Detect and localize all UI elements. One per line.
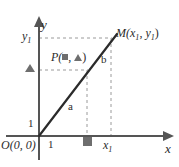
x1-tick-label: x1 (103, 139, 112, 155)
square-marker-x-axis (83, 137, 92, 146)
geometry-figure: y x y1 x1 1 1 O(0, 0) M(x1, y1) P(, ) a … (0, 0, 179, 167)
point-p-label: P(, ) (51, 51, 86, 63)
y-axis-label: y (41, 18, 47, 31)
triangle-glyph (74, 54, 82, 61)
x-axis-label: x (165, 142, 171, 155)
x1-tick-sub: 1 (108, 145, 112, 154)
x-axis-arrow-icon (163, 131, 174, 141)
point-m-prefix: M( (116, 26, 130, 40)
square-glyph (62, 54, 68, 60)
point-p-prefix: P( (51, 50, 62, 64)
segment-a-label: a (68, 101, 73, 112)
y1-tick-sub: 1 (27, 36, 31, 45)
y1-tick-label: y1 (22, 30, 31, 46)
point-m-suffix: ) (155, 26, 159, 40)
point-p-suffix: ) (82, 50, 86, 64)
point-m-label: M(x1, y1) (116, 27, 159, 43)
unit-tick-x-label: 1 (48, 139, 54, 150)
unit-tick-y-label: 1 (28, 118, 34, 129)
triangle-marker-y-axis (25, 64, 35, 72)
segment-b-label: b (101, 54, 107, 65)
origin-label: O(0, 0) (1, 139, 36, 151)
